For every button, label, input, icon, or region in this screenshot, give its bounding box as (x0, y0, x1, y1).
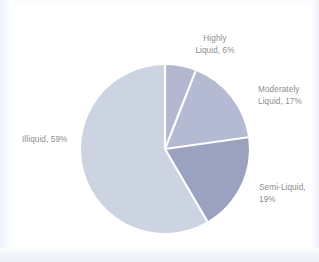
pie-graphic (13, 5, 310, 248)
figure-right-edge (310, 0, 319, 262)
figure-left-edge (0, 0, 13, 262)
slice-label-moderately-liquid: Moderately Liquid, 17% (258, 84, 319, 107)
figure-bottom-edge (0, 248, 319, 262)
slice-label-illiquid: Illiquid, 59% (22, 134, 92, 146)
plot-area: Highly Liquid, 6% Moderately Liquid, 17%… (13, 5, 310, 248)
slice-label-semi-liquid: Semi-Liquid, 19% (259, 182, 319, 205)
pie-chart-figure: Highly Liquid, 6% Moderately Liquid, 17%… (0, 0, 319, 262)
slice-label-highly-liquid: Highly Liquid, 6% (184, 33, 246, 56)
